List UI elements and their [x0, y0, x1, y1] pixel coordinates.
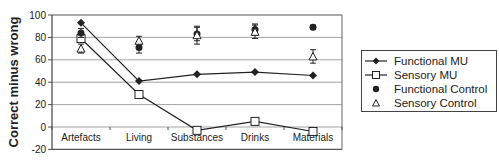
- x-category-label: Artefacts: [61, 132, 100, 143]
- y-axis-ticks: 100806040200-20: [29, 10, 46, 155]
- y-tick-label: -20: [32, 144, 47, 155]
- square-line-icon: [362, 68, 390, 82]
- circle-marker: [78, 29, 85, 36]
- legend-item-functional-control: Functional Control: [362, 82, 487, 96]
- legend-label: Sensory Control: [394, 97, 476, 109]
- y-tick-label: 20: [35, 99, 47, 110]
- square-marker: [193, 126, 201, 134]
- legend-label: Functional MU: [394, 55, 468, 67]
- x-category-label: Living: [126, 132, 152, 143]
- series-layer: [77, 19, 317, 136]
- legend-label: Sensory MU: [394, 69, 457, 81]
- legend: Functional MU Sensory MU Functional Cont…: [361, 50, 497, 112]
- diamond-marker: [193, 70, 201, 78]
- triangle-marker: [309, 52, 317, 60]
- legend-item-sensory-mu: Sensory MU: [362, 68, 457, 82]
- triangle-marker: [77, 45, 85, 53]
- triangle-marker: [135, 37, 143, 45]
- diamond-marker: [309, 71, 317, 79]
- legend-label: Functional Control: [394, 83, 487, 95]
- open-triangle-icon: [362, 96, 390, 110]
- legend-item-sensory-control: Sensory Control: [362, 96, 476, 110]
- y-tick-label: 0: [40, 122, 46, 133]
- series-sensory-mu: [77, 35, 317, 136]
- diamond-line-icon: [362, 54, 390, 68]
- circle-marker: [310, 24, 317, 31]
- series-sensory-control: [77, 25, 317, 63]
- square-marker: [135, 91, 143, 99]
- y-tick-label: 40: [35, 77, 47, 88]
- square-marker: [251, 117, 259, 125]
- y-axis-label: Correct minus wrong: [6, 17, 21, 148]
- y-tick-label: 100: [29, 10, 46, 21]
- y-tick-label: 80: [35, 32, 47, 43]
- square-marker: [309, 127, 317, 135]
- diamond-marker: [251, 68, 259, 76]
- y-tick-label: 60: [35, 54, 47, 65]
- x-category-label: Drinks: [241, 132, 269, 143]
- filled-circle-icon: [362, 82, 390, 96]
- legend-item-functional-mu: Functional MU: [362, 54, 468, 68]
